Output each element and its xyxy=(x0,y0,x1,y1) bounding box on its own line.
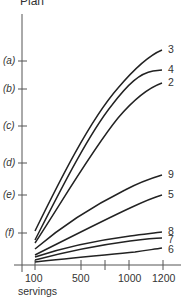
curves xyxy=(35,50,162,262)
chart: Plan xyxy=(0,0,181,299)
y-tick-label-f: (f) xyxy=(5,227,14,238)
curve-label-6: 6 xyxy=(168,243,174,255)
y-tick-label-a: (a) xyxy=(3,55,15,66)
curve-label-5: 5 xyxy=(168,188,174,200)
curve-label-4: 4 xyxy=(168,63,174,75)
plot-area xyxy=(0,0,181,299)
x-tick-label-100: 100 xyxy=(25,272,43,284)
curve-label-3: 3 xyxy=(168,43,174,55)
curve-label-2: 2 xyxy=(168,76,174,88)
x-tick-label-1200: 1200 xyxy=(152,272,175,284)
y-tick-label-c: (c) xyxy=(3,120,15,131)
curve-8 xyxy=(35,232,162,257)
y-tick-label-e: (e) xyxy=(3,189,15,200)
x-tick-label-500: 500 xyxy=(72,272,90,284)
curve-2 xyxy=(35,83,162,243)
x-axis-label: servings xyxy=(18,285,57,297)
curve-label-9: 9 xyxy=(168,168,174,180)
x-tick-label-1000: 1000 xyxy=(118,272,141,284)
y-tick-label-b: (b) xyxy=(3,83,15,94)
y-tick-label-d: (d) xyxy=(3,157,15,168)
